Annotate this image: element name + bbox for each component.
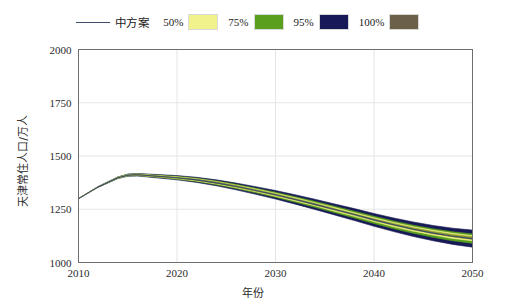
y-tick-label: 1750 xyxy=(50,97,73,109)
y-tick-label: 2000 xyxy=(50,44,73,56)
chart-page: 中方案 50% 75% 95% 100% 2010202020302040205… xyxy=(0,0,505,307)
x-tick-label: 2050 xyxy=(462,267,485,279)
x-tick-label: 2040 xyxy=(363,267,386,279)
y-tick-label: 1500 xyxy=(50,150,73,162)
y-tick-label: 1250 xyxy=(50,203,73,215)
chart-svg: 20102020203020402050 1000125015001750200… xyxy=(0,0,505,307)
y-axis-title: 天津常住人口/万人 xyxy=(14,91,30,231)
chart-plot-area: 20102020203020402050 1000125015001750200… xyxy=(0,0,505,307)
y-axis-ticks: 10001250150017502000 xyxy=(50,44,73,269)
y-tick-label: 1000 xyxy=(50,257,73,269)
x-axis-title: 年份 xyxy=(0,284,505,300)
x-tick-label: 2030 xyxy=(265,267,288,279)
x-axis-ticks: 20102020203020402050 xyxy=(68,267,485,279)
x-tick-label: 2020 xyxy=(166,267,189,279)
